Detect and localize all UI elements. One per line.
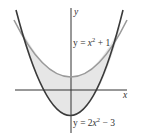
curve-lower-label: y = 2x2 − 3 [73, 116, 115, 128]
area-between-curves-diagram: y x y = x2 + 1 y = 2x2 − 3 [0, 0, 157, 138]
curve-upper-label: y = x2 + 1 [73, 36, 110, 48]
x-axis-label: x [122, 90, 128, 100]
y-axis-label: y [73, 7, 79, 17]
